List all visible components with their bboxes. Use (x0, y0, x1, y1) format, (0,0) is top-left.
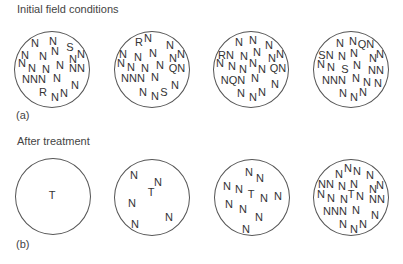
plant-symbol: N (258, 64, 266, 75)
plant-symbol: N (338, 181, 346, 192)
plant-symbol: N (359, 87, 367, 98)
heading-initial-field-conditions: Initial field conditions (17, 3, 119, 15)
plant-symbol: N (249, 58, 257, 69)
plant-symbol: N (31, 38, 39, 49)
plant-symbol: N (349, 36, 357, 47)
plant-symbol: N (71, 80, 79, 91)
plant-symbol: N (352, 205, 360, 216)
plant-symbol: NNN (323, 206, 347, 217)
plant-symbol: NNN (121, 73, 145, 84)
plant-symbol: T (148, 187, 155, 198)
plant-symbol: N (239, 204, 247, 215)
plant-symbol: N (60, 88, 68, 99)
plant-symbol: N (171, 80, 179, 91)
plant-symbol: N (317, 189, 325, 200)
plant-symbol: N (151, 72, 159, 83)
plant-symbol: N (53, 73, 61, 84)
plant-symbol: N (339, 219, 347, 230)
plant-symbol: N (350, 48, 358, 59)
plant-symbol: N (317, 59, 325, 70)
plant-symbol: N (235, 184, 243, 195)
plant-symbol: N (165, 212, 173, 223)
plant-symbol: N (256, 173, 264, 184)
plant-symbol: QN (358, 39, 375, 50)
plant-symbol: N (271, 79, 279, 90)
plant-symbol: R (135, 37, 143, 48)
plant-symbol: N (339, 88, 347, 99)
plant-symbol: S (66, 42, 73, 53)
plant-symbol: N (327, 193, 335, 204)
plant-symbol: N (260, 193, 268, 204)
plant-symbol: QN (270, 63, 287, 74)
plant-symbol: NQN (221, 75, 245, 86)
plant-symbol: N (177, 49, 185, 60)
plant-symbol: N (335, 169, 343, 180)
plant-symbol: N (350, 92, 358, 103)
plant-symbol: N (151, 91, 159, 102)
plant-symbol: S (160, 87, 167, 98)
plant-symbol: N (366, 170, 374, 181)
plant-symbol: N (235, 37, 243, 48)
plant-symbol: N (359, 219, 367, 230)
plant-symbol: R (39, 87, 47, 98)
plant-symbol: N (228, 61, 236, 72)
plant-symbol: N (276, 49, 284, 60)
plant-symbol: N (249, 35, 257, 46)
plant-symbol: N (77, 49, 85, 60)
plant-symbol: NNN (22, 74, 46, 85)
plant-symbol: T (49, 190, 56, 201)
plant-symbol: N (265, 40, 273, 51)
plant-symbol: N (251, 73, 259, 84)
plant-symbol: N (258, 87, 266, 98)
plant-symbol: N (352, 73, 360, 84)
plant-symbol: N (128, 198, 136, 209)
plant-symbol: N (156, 60, 164, 71)
plant-symbol: N (56, 60, 64, 71)
plant-symbol: N (353, 60, 361, 71)
plant-symbol: N (139, 87, 147, 98)
plant-symbol: QN (169, 63, 186, 74)
plant-symbol: N (117, 58, 125, 69)
plant-symbol: N (249, 92, 257, 103)
plant-symbol: N (223, 181, 231, 192)
plant-symbol: N (356, 191, 364, 202)
plant-symbol: N (344, 163, 352, 174)
panel-b-field-circle-2 (114, 159, 190, 236)
plant-symbol: N (245, 167, 253, 178)
plant-symbol: N (225, 199, 233, 210)
plant-symbol: N (336, 38, 344, 49)
plant-symbol: N (376, 180, 384, 191)
panel-label-a: (a) (16, 109, 29, 121)
plant-symbol: N (39, 51, 47, 62)
plant-symbol: N (130, 170, 138, 181)
plant-symbol: N (166, 40, 174, 51)
plant-symbol: N (144, 33, 152, 44)
plant-symbol: NN (368, 65, 384, 76)
plant-symbol: N (371, 210, 379, 221)
plant-symbol: N (131, 219, 139, 230)
plant-symbol: N (353, 166, 361, 177)
plant-symbol: N (327, 62, 335, 73)
plant-symbol: T (248, 189, 255, 200)
panel-label-b: (b) (16, 238, 29, 250)
plant-symbol: N (242, 224, 250, 235)
plant-symbol: N (237, 88, 245, 99)
plant-symbol: T (348, 189, 355, 200)
plant-symbol: N (350, 224, 358, 235)
plant-symbol: N (374, 78, 382, 89)
plant-symbol: N (338, 51, 346, 62)
plant-symbol: N (18, 58, 26, 69)
plant-symbol: N (51, 92, 59, 103)
plant-symbol: N (51, 46, 59, 57)
plant-symbol: N (149, 48, 157, 59)
plant-symbol: N (274, 191, 282, 202)
plant-symbol: N (216, 58, 224, 69)
plant-symbol: NNN (322, 75, 346, 86)
plant-symbol: N (240, 51, 248, 62)
plant-symbol: NN (69, 63, 85, 74)
plant-symbol: N (255, 212, 263, 223)
plant-symbol: N (376, 49, 384, 60)
plant-symbol: NN (369, 194, 385, 205)
plant-symbol: N (154, 177, 162, 188)
heading-after-treatment: After treatment (17, 135, 90, 147)
